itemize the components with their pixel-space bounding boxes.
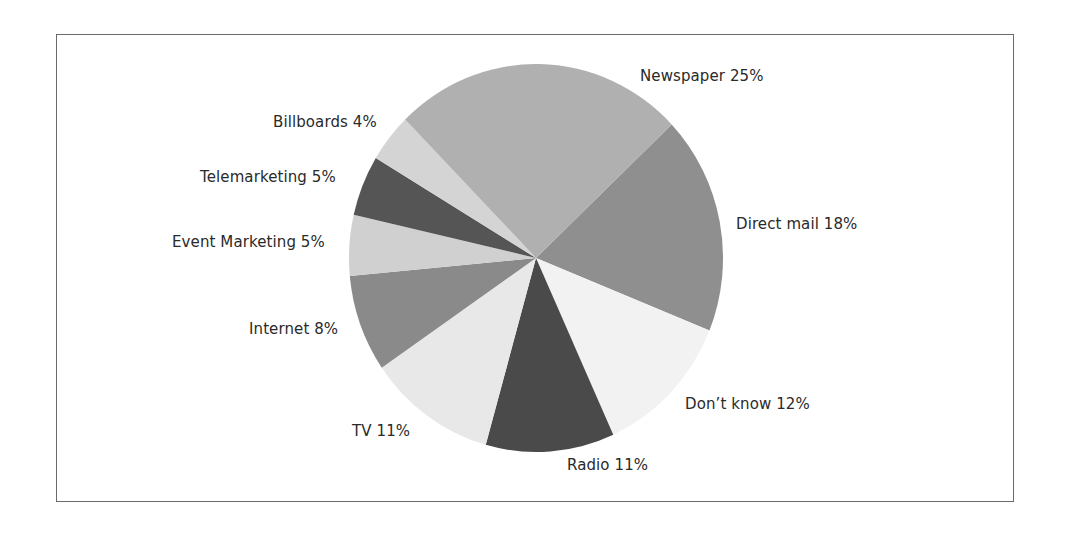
pie-chart	[0, 0, 1068, 534]
label-direct-mail: Direct mail 18%	[736, 215, 857, 233]
label-telemarketing: Telemarketing 5%	[200, 168, 336, 186]
pie-slices	[349, 64, 723, 452]
label-event-marketing: Event Marketing 5%	[172, 233, 325, 251]
label-tv: TV 11%	[352, 422, 410, 440]
label-billboards: Billboards 4%	[273, 113, 377, 131]
label-dont-know: Don’t know 12%	[685, 395, 810, 413]
label-internet: Internet 8%	[249, 320, 338, 338]
label-newspaper: Newspaper 25%	[640, 67, 764, 85]
label-radio: Radio 11%	[567, 456, 648, 474]
